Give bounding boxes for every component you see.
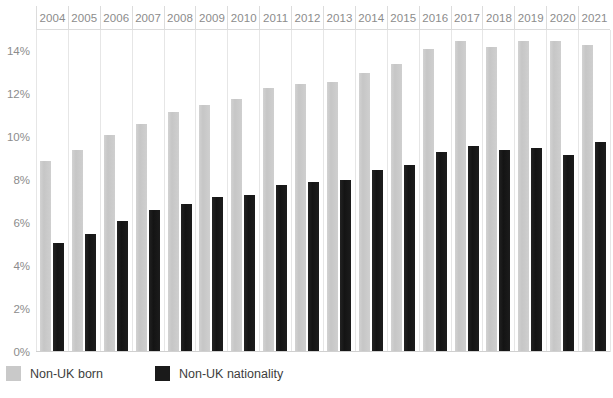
legend-swatch-icon-born bbox=[6, 366, 21, 381]
bar-non-uk-nationality-2013[interactable] bbox=[340, 180, 351, 352]
bar-group-2021 bbox=[578, 30, 610, 352]
bar-group-2020 bbox=[546, 30, 578, 352]
bar-non-uk-born-2004[interactable] bbox=[40, 161, 51, 352]
bar-non-uk-born-2018[interactable] bbox=[486, 47, 497, 352]
year-label-2016: 2016 bbox=[419, 6, 451, 29]
bar-group-2018 bbox=[482, 30, 514, 352]
bar-non-uk-nationality-2017[interactable] bbox=[468, 146, 479, 352]
bar-chart: 2004200520062007200820092010201120122013… bbox=[0, 0, 613, 398]
year-label-2013: 2013 bbox=[323, 6, 355, 29]
bar-group-2016 bbox=[419, 30, 451, 352]
year-label-2009: 2009 bbox=[195, 6, 227, 29]
year-label-2021: 2021 bbox=[578, 6, 610, 29]
bar-group-2012 bbox=[291, 30, 323, 352]
bar-non-uk-born-2010[interactable] bbox=[231, 99, 242, 352]
bar-group-2008 bbox=[164, 30, 196, 352]
y-tick-label-6: 6% bbox=[13, 217, 30, 229]
bar-group-2004 bbox=[36, 30, 68, 352]
bar-non-uk-nationality-2004[interactable] bbox=[53, 243, 64, 352]
bar-non-uk-nationality-2005[interactable] bbox=[85, 234, 96, 352]
bar-non-uk-nationality-2006[interactable] bbox=[117, 221, 128, 352]
bar-non-uk-born-2016[interactable] bbox=[423, 49, 434, 352]
y-tick-label-2: 2% bbox=[13, 303, 30, 315]
bar-non-uk-born-2019[interactable] bbox=[518, 41, 529, 352]
legend-label: Non-UK nationality bbox=[179, 367, 283, 381]
bar-non-uk-born-2011[interactable] bbox=[263, 88, 274, 352]
legend-item-nationality[interactable]: Non-UK nationality bbox=[155, 366, 283, 381]
y-tick-label-0: 0% bbox=[13, 346, 30, 358]
year-label-2008: 2008 bbox=[164, 6, 196, 29]
bar-non-uk-nationality-2010[interactable] bbox=[244, 195, 255, 352]
y-tick-label-10: 10% bbox=[7, 131, 30, 143]
y-tick-label-12: 12% bbox=[7, 88, 30, 100]
year-label-2020: 2020 bbox=[546, 6, 578, 29]
bar-non-uk-born-2005[interactable] bbox=[72, 150, 83, 352]
bar-non-uk-born-2015[interactable] bbox=[391, 64, 402, 352]
bar-group-2015 bbox=[387, 30, 419, 352]
bar-groups bbox=[36, 30, 610, 352]
bar-non-uk-nationality-2008[interactable] bbox=[181, 204, 192, 352]
y-axis: 14%12%10%8%6%4%2%0% bbox=[0, 30, 36, 352]
bar-non-uk-born-2020[interactable] bbox=[550, 41, 561, 352]
bar-group-2011 bbox=[259, 30, 291, 352]
bar-group-2010 bbox=[227, 30, 259, 352]
bar-non-uk-nationality-2021[interactable] bbox=[595, 142, 606, 352]
bar-non-uk-nationality-2018[interactable] bbox=[499, 150, 510, 352]
year-label-2004: 2004 bbox=[36, 6, 68, 29]
year-label-2017: 2017 bbox=[451, 6, 483, 29]
bar-non-uk-nationality-2019[interactable] bbox=[531, 148, 542, 352]
year-label-2011: 2011 bbox=[259, 6, 291, 29]
bar-group-2009 bbox=[195, 30, 227, 352]
bar-group-2019 bbox=[514, 30, 546, 352]
bar-non-uk-nationality-2009[interactable] bbox=[212, 197, 223, 352]
bar-group-2007 bbox=[132, 30, 164, 352]
bar-non-uk-born-2014[interactable] bbox=[359, 73, 370, 352]
chart-legend: Non-UK bornNon-UK nationality bbox=[6, 366, 335, 381]
year-label-2018: 2018 bbox=[482, 6, 514, 29]
bar-group-2005 bbox=[68, 30, 100, 352]
vertical-gridline bbox=[610, 30, 611, 352]
bar-non-uk-born-2017[interactable] bbox=[455, 41, 466, 352]
legend-swatch-icon-nationality bbox=[155, 366, 170, 381]
bar-non-uk-born-2007[interactable] bbox=[136, 124, 147, 352]
bar-non-uk-nationality-2020[interactable] bbox=[563, 155, 574, 352]
year-label-2014: 2014 bbox=[355, 6, 387, 29]
bar-non-uk-nationality-2012[interactable] bbox=[308, 182, 319, 352]
bar-non-uk-born-2006[interactable] bbox=[104, 135, 115, 352]
baseline-axis bbox=[36, 351, 610, 352]
bar-group-2013 bbox=[323, 30, 355, 352]
year-label-2019: 2019 bbox=[514, 6, 546, 29]
bar-non-uk-nationality-2007[interactable] bbox=[149, 210, 160, 352]
bar-non-uk-born-2013[interactable] bbox=[327, 82, 338, 352]
year-label-2015: 2015 bbox=[387, 6, 419, 29]
y-tick-label-8: 8% bbox=[13, 174, 30, 186]
bar-non-uk-born-2021[interactable] bbox=[582, 45, 593, 352]
year-label-2012: 2012 bbox=[291, 6, 323, 29]
legend-item-born[interactable]: Non-UK born bbox=[6, 366, 103, 381]
bar-non-uk-born-2009[interactable] bbox=[199, 105, 210, 352]
bar-group-2017 bbox=[451, 30, 483, 352]
bar-non-uk-born-2012[interactable] bbox=[295, 84, 306, 352]
plot-area bbox=[36, 30, 610, 352]
bar-group-2006 bbox=[100, 30, 132, 352]
y-tick-label-14: 14% bbox=[7, 45, 30, 57]
bar-group-2014 bbox=[355, 30, 387, 352]
year-axis-header: 2004200520062007200820092010201120122013… bbox=[36, 6, 610, 30]
bar-non-uk-nationality-2014[interactable] bbox=[372, 170, 383, 352]
year-label-2007: 2007 bbox=[132, 6, 164, 29]
y-tick-label-4: 4% bbox=[13, 260, 30, 272]
year-label-2006: 2006 bbox=[100, 6, 132, 29]
bar-non-uk-born-2008[interactable] bbox=[168, 112, 179, 352]
bar-non-uk-nationality-2016[interactable] bbox=[436, 152, 447, 352]
year-label-2005: 2005 bbox=[68, 6, 100, 29]
legend-label: Non-UK born bbox=[30, 367, 103, 381]
bar-non-uk-nationality-2011[interactable] bbox=[276, 185, 287, 352]
year-label-2010: 2010 bbox=[227, 6, 259, 29]
bar-non-uk-nationality-2015[interactable] bbox=[404, 165, 415, 352]
